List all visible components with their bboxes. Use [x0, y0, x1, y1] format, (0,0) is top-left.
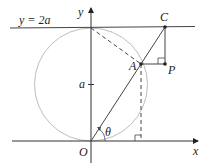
origin-label: O — [79, 145, 88, 159]
line-OC — [91, 27, 165, 141]
point-A-label: A — [128, 59, 137, 73]
x-axis-label: x — [192, 144, 199, 158]
right-angle-mark-x — [135, 135, 141, 141]
y-axis-label: y — [77, 5, 84, 19]
point-A — [139, 62, 143, 66]
angle-label: θ — [105, 125, 111, 139]
radius-label: a — [79, 77, 85, 91]
line-label: y = 2a — [18, 13, 50, 27]
point-C — [163, 25, 167, 29]
point-P-label: P — [167, 63, 176, 77]
diagram-canvas: y = 2a y x O A C P a θ — [0, 0, 208, 167]
point-C-label: C — [160, 10, 169, 24]
point-P — [163, 62, 167, 66]
